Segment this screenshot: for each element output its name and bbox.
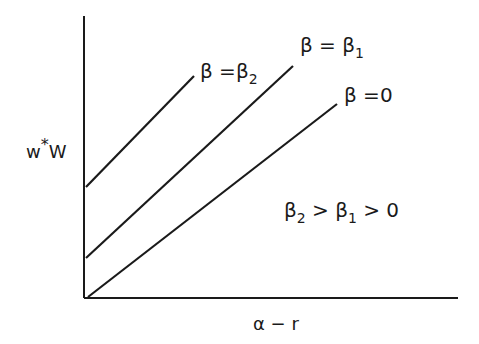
label-beta-zero: β =0 xyxy=(344,83,393,107)
y-axis-label: w*W xyxy=(26,135,67,162)
label-beta-beta2: β =β2 xyxy=(200,59,258,87)
diagram-canvas: β =β2 β = β1 β =0 w*W α − r β2 > β1 > 0 xyxy=(0,0,479,344)
label-beta-beta1: β = β1 xyxy=(300,33,364,61)
beta-inequality-annotation: β2 > β1 > 0 xyxy=(284,198,399,226)
x-axis-label: α − r xyxy=(253,313,299,334)
line-beta-zero xyxy=(88,104,337,297)
line-beta-beta2 xyxy=(86,76,194,187)
